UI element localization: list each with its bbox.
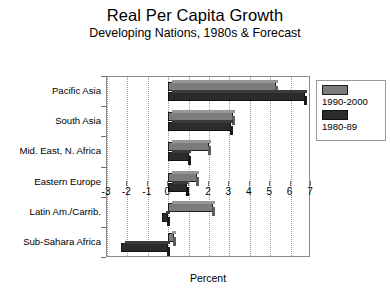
bar-top-face (172, 120, 233, 123)
bar-top-face (172, 201, 215, 204)
legend: 1990-2000 1980-89 (316, 80, 386, 141)
legend-label-1990-2000: 1990-2000 (322, 96, 381, 107)
legend-entry-1: 1980-89 (322, 110, 381, 132)
x-tick-label-4: 4 (239, 186, 259, 197)
x-tick-label-1: 1 (178, 186, 198, 197)
bar-4-1 (162, 213, 168, 222)
bar-top-face (172, 110, 235, 113)
bar-top-face (172, 150, 190, 153)
bar-top-face (166, 211, 170, 214)
bar-top-face (125, 241, 170, 244)
legend-swatch-1990-2000 (322, 85, 348, 95)
y-tick-end (101, 257, 106, 258)
y-tick-5 (101, 227, 106, 228)
y-tick-0 (101, 76, 106, 77)
x-tick-label-2: 2 (198, 186, 218, 197)
bar-top-face (172, 181, 188, 184)
bar-side-face (167, 217, 170, 226)
x-tick-label-5: 5 (259, 186, 279, 197)
x-tick-label--3: -3 (96, 186, 116, 197)
legend-swatch-1980-89 (322, 110, 348, 120)
chart-subtitle: Developing Nations, 1980s & Forecast (0, 26, 390, 40)
y-axis-label-3: Eastern Europe (0, 177, 101, 187)
bar-side-face (173, 237, 176, 246)
y-axis-label-4: Latin Am./Carrib. (0, 207, 101, 217)
legend-entry-0: 1990-2000 (322, 85, 381, 107)
bar-side-face (212, 207, 215, 216)
bar-top-face (172, 90, 307, 93)
bar-side-face (167, 247, 170, 256)
bar-top-face (172, 231, 176, 234)
x-tick-label--1: -1 (137, 186, 157, 197)
bar-side-face (196, 177, 199, 186)
y-tick-2 (101, 136, 106, 137)
chart-container: Real Per Capita Growth Developing Nation… (0, 0, 390, 292)
y-tick-3 (101, 167, 106, 168)
bar-0-1 (168, 92, 305, 101)
x-tick-label-6: 6 (280, 186, 300, 197)
x-tick-label-0: 0 (157, 186, 177, 197)
y-axis-label-0: Pacific Asia (0, 86, 101, 96)
x-axis-title: Percent (106, 272, 310, 284)
bar-side-face (208, 146, 211, 155)
bar-2-1 (168, 152, 188, 161)
y-axis-label-5: Sub-Sahara Africa (0, 237, 101, 247)
bar-5-1 (121, 243, 168, 252)
y-tick-1 (101, 106, 106, 107)
bar-top-face (172, 80, 278, 83)
x-tick-label-7: 7 (300, 186, 320, 197)
bars-layer (107, 77, 309, 256)
bar-4-0 (168, 203, 213, 212)
bar-side-face (230, 126, 233, 135)
x-tick-label--2: -2 (116, 186, 136, 197)
bar-1-1 (168, 122, 231, 131)
bar-top-face (172, 140, 211, 143)
y-axis-label-1: South Asia (0, 116, 101, 126)
bar-top-face (172, 171, 199, 174)
y-axis-label-2: Mid. East, N. Africa (0, 146, 101, 156)
chart-title: Real Per Capita Growth (0, 6, 390, 25)
plot-area (106, 76, 310, 257)
bar-side-face (188, 156, 191, 165)
bar-side-face (304, 96, 307, 105)
legend-label-1980-89: 1980-89 (322, 121, 381, 132)
x-tick-label-3: 3 (218, 186, 238, 197)
